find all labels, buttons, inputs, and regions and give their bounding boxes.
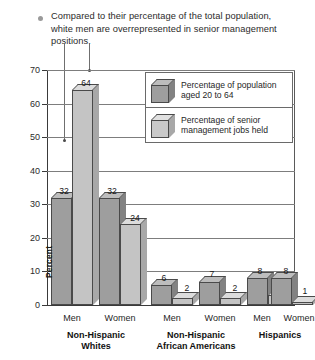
cube-icon: [151, 112, 175, 138]
category-label-nhwhite-women: Women: [105, 313, 136, 323]
chart-legend: Percentage of population aged 20 to 64 P…: [145, 72, 293, 143]
bar-value-nhwhite-men-senior: 64: [81, 78, 91, 88]
category-label-nhwhite-men: Men: [63, 313, 81, 323]
bar-front-face: [292, 302, 313, 305]
bar-value-nhblack-men-population: 6: [162, 273, 167, 283]
group-label-line1: Non-Hispanic: [67, 330, 125, 341]
group-label-line2: Whites: [67, 341, 125, 352]
y-tick-label-0: 0: [35, 300, 40, 310]
bar-front-face: [220, 298, 241, 305]
bar-front-face: [199, 282, 220, 306]
y-tick-30: [42, 204, 47, 205]
category-label-hispanic-men: Men: [253, 313, 271, 323]
gridline-70: [47, 70, 295, 71]
bar-value-hispanic-men-population: 8: [258, 266, 263, 276]
bar-front-face: [72, 90, 93, 305]
baseline-0: [47, 305, 295, 306]
category-label-hispanic-women: Women: [284, 313, 315, 323]
bar-front-face: [51, 198, 72, 305]
bar-front-face: [172, 298, 193, 305]
group-label-nhwhite: Non-Hispanic Whites: [67, 330, 125, 353]
y-tick-label-10: 10: [30, 266, 40, 276]
legend-label-senior: Percentage of senior management jobs hel…: [181, 115, 287, 136]
y-tick-label-20: 20: [30, 233, 40, 243]
bar-value-nhwhite-men-population: 32: [59, 186, 69, 196]
bar-front-face: [120, 224, 141, 305]
y-tick-label-50: 50: [30, 132, 40, 142]
group-label-line1: Hispanics: [259, 330, 302, 341]
y-tick-20: [42, 238, 47, 239]
bar-hispanic-men-population: [247, 278, 268, 305]
y-tick-label-60: 60: [30, 99, 40, 109]
caption-text: Compared to their percentage of the tota…: [51, 10, 290, 48]
group-label-hispanic: Hispanics: [259, 330, 302, 341]
bar-nhwhite-women-population: [99, 198, 120, 305]
bar-nhblack-men-population: [151, 285, 172, 305]
bar-value-hispanic-women-senior: 1: [303, 286, 308, 296]
bar-nhblack-women-population: [199, 282, 220, 306]
cube-icon: [151, 77, 175, 103]
bar-front-face: [247, 278, 268, 305]
bar-side-face: [141, 218, 147, 305]
legend-item-senior: Percentage of senior management jobs hel…: [146, 108, 292, 142]
bar-nhwhite-men-population: [51, 198, 72, 305]
bar-value-nhblack-men-senior: 2: [185, 283, 190, 293]
bar-value-nhwhite-women-senior: 24: [130, 213, 140, 223]
legend-label-population: Percentage of population aged 20 to 64: [181, 80, 287, 101]
y-axis-title: Percent: [44, 246, 54, 278]
y-tick-60: [42, 104, 47, 105]
bar-hispanic-women-senior: [292, 302, 313, 305]
y-tick-40: [42, 171, 47, 172]
bar-hispanic-women-population: [271, 278, 292, 305]
bar-front-face: [99, 198, 120, 305]
annotation-leader-line-senior: [89, 44, 90, 70]
cube-front-face: [151, 85, 169, 103]
group-label-nhblack: Non-Hispanic African Americans: [156, 330, 235, 353]
group-label-line2: African Americans: [156, 341, 235, 352]
y-tick-label-70: 70: [30, 65, 40, 75]
bar-value-nhblack-women-senior: 2: [233, 283, 238, 293]
y-tick-50: [42, 137, 47, 138]
legend-item-population: Percentage of population aged 20 to 64: [146, 73, 292, 108]
bar-value-nhblack-women-population: 7: [210, 269, 215, 279]
bar-nhblack-women-senior: [220, 298, 241, 305]
bar-nhblack-men-senior: [172, 298, 193, 305]
category-label-nhblack-women: Women: [205, 313, 236, 323]
category-label-nhblack-men: Men: [163, 313, 181, 323]
chart-caption: Compared to their percentage of the tota…: [38, 10, 290, 48]
group-label-line1: Non-Hispanic: [156, 330, 235, 341]
bar-nhwhite-men-senior: [72, 90, 93, 305]
y-tick-label-30: 30: [30, 199, 40, 209]
y-tick-70: [42, 70, 47, 71]
bar-front-face: [151, 285, 172, 305]
bar-value-hispanic-women-population: 8: [284, 266, 289, 276]
bar-nhwhite-women-senior: [120, 224, 141, 305]
bar-front-face: [271, 278, 292, 305]
bar-value-nhwhite-women-population: 32: [107, 186, 117, 196]
bullet-dot-icon: [38, 16, 43, 21]
y-tick-label-40: 40: [30, 166, 40, 176]
chart-right-border: [294, 70, 295, 305]
cube-front-face: [151, 120, 169, 138]
